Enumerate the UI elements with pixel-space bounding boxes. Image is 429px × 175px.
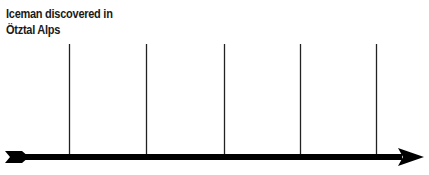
timeline-arrow: [5, 148, 424, 166]
tick-marks: [70, 44, 377, 157]
timeline-axis: [22, 154, 402, 160]
timeline-diagram: [0, 0, 429, 175]
